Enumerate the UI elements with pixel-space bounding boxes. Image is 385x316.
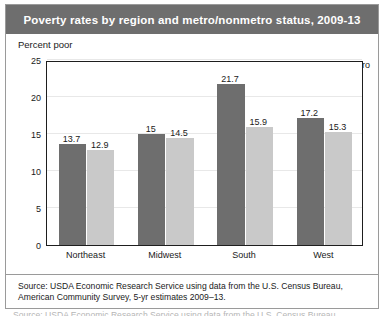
bar-value-label: 15 xyxy=(146,124,156,134)
bar-value-label: 13.7 xyxy=(63,134,81,144)
bar-value-label: 12.9 xyxy=(91,140,109,150)
plot-wrapper: 0510152025 NortheastMidwestSouthWest 13.… xyxy=(17,55,369,264)
bar-south-nonmetro xyxy=(217,84,244,245)
page-title: Poverty rates by region and metro/nonmet… xyxy=(23,14,360,26)
bar-northeast-metro xyxy=(87,150,114,245)
source-note: Source: USDA Economic Research Service u… xyxy=(18,281,368,303)
cutoff-source-note: Source: USDA Economic Research Service u… xyxy=(13,310,371,316)
chart-card: Poverty rates by region and metro/nonmet… xyxy=(5,4,379,309)
y-axis-caption: Percent poor xyxy=(18,39,72,50)
chart-title-bar: Poverty rates by region and metro/nonmet… xyxy=(6,5,378,34)
bar-south-metro xyxy=(246,127,273,245)
y-axis-tick-label: 15 xyxy=(31,130,41,140)
gridline xyxy=(47,59,362,60)
plot-area xyxy=(46,61,363,246)
bar-west-metro xyxy=(325,132,352,245)
x-axis-label-northeast: Northeast xyxy=(66,250,105,260)
bar-west-nonmetro xyxy=(297,118,324,245)
y-axis-tick-label: 0 xyxy=(36,241,41,251)
bar-midwest-metro xyxy=(166,138,193,245)
bar-northeast-nonmetro xyxy=(59,144,86,245)
bar-value-label: 15.3 xyxy=(329,122,347,132)
bar-value-label: 21.7 xyxy=(221,74,239,84)
bar-value-label: 17.2 xyxy=(300,108,318,118)
source-separator xyxy=(6,274,378,275)
x-axis-label-west: West xyxy=(313,250,333,260)
bars-layer xyxy=(47,62,362,245)
bar-value-label: 14.5 xyxy=(170,128,188,138)
bar-midwest-nonmetro xyxy=(138,134,165,245)
y-axis-tick-label: 10 xyxy=(31,167,41,177)
y-axis-tick-label: 20 xyxy=(31,93,41,103)
chart-figure: Poverty rates by region and metro/nonmet… xyxy=(0,0,385,316)
x-axis-label-midwest: Midwest xyxy=(148,250,181,260)
bar-value-label: 15.9 xyxy=(250,117,268,127)
y-axis-tick-label: 25 xyxy=(31,56,41,66)
y-axis-tick-label: 5 xyxy=(36,204,41,214)
x-axis-label-south: South xyxy=(232,250,256,260)
